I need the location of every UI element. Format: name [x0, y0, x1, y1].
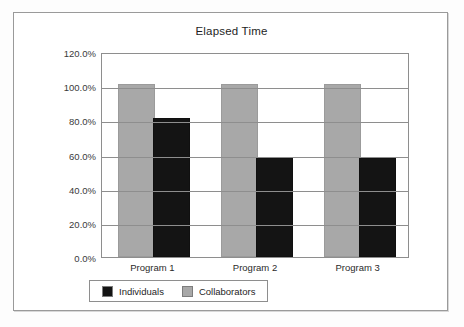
y-axis-tick-label: 20.0% — [34, 218, 96, 229]
gridline — [102, 88, 408, 89]
gridline — [102, 191, 408, 192]
chart-legend: IndividualsCollaborators — [89, 280, 268, 302]
legend-item-collaborators: Collaborators — [182, 286, 256, 297]
x-axis-tick-label: Program 2 — [233, 262, 277, 273]
bars-layer — [102, 54, 408, 257]
chart-title: Elapsed Time — [14, 25, 449, 37]
gridline — [102, 225, 408, 226]
bar-collaborators-program-2 — [221, 84, 258, 257]
gridline — [102, 122, 408, 123]
legend-item-label: Individuals — [119, 286, 164, 297]
bar-collaborators-program-1 — [118, 84, 155, 257]
chart-screenshot: Elapsed Time 120.0%100.0%80.0%60.0%40.0%… — [0, 0, 464, 327]
y-axis-tick-label: 120.0% — [34, 48, 96, 59]
bar-individuals-program-2 — [256, 158, 293, 257]
y-axis-tick-label: 100.0% — [34, 82, 96, 93]
y-axis-tick-label: 60.0% — [34, 150, 96, 161]
plot-area — [101, 53, 409, 258]
gray-swatch-icon — [182, 286, 193, 297]
x-axis-tick-label: Program 1 — [130, 262, 174, 273]
legend-item-individuals: Individuals — [102, 286, 164, 297]
black-swatch-icon — [102, 286, 113, 297]
x-axis-labels: Program 1Program 2Program 3 — [101, 262, 409, 280]
gridline — [102, 157, 408, 158]
y-axis-labels: 120.0%100.0%80.0%60.0%40.0%20.0%0.0% — [32, 53, 96, 258]
bar-individuals-program-3 — [359, 158, 396, 257]
chart-frame: Elapsed Time 120.0%100.0%80.0%60.0%40.0%… — [13, 12, 448, 311]
y-axis-tick-label: 0.0% — [34, 253, 96, 264]
bar-collaborators-program-3 — [324, 84, 361, 257]
bar-individuals-program-1 — [153, 118, 190, 257]
y-axis-tick-label: 80.0% — [34, 116, 96, 127]
legend-item-label: Collaborators — [199, 286, 256, 297]
x-axis-tick-label: Program 3 — [335, 262, 379, 273]
y-axis-tick-label: 40.0% — [34, 184, 96, 195]
